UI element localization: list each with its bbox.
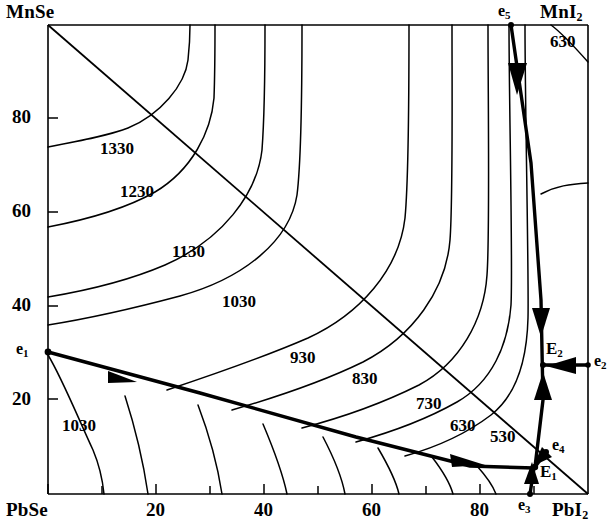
contour-label-930: 930 [290,349,316,366]
point-label-E2-sub: 2 [557,347,563,359]
sub-contour-b [198,405,222,494]
contour-label-1230: 1230 [120,183,154,200]
point-E1 [532,464,538,470]
point-label-e4-sub: 4 [559,443,565,455]
contour-label-530: 530 [490,428,516,445]
ytick-label-80: 80 [12,107,31,126]
point-label-E2: E2 [546,340,563,357]
corner-label-pbse: PbSe [6,500,48,519]
arrowhead-e1-2 [450,454,485,467]
corner-label-mni2-sub: 2 [577,10,583,24]
point-label-e2-sub: 2 [601,359,607,371]
isotherm-1030-upper [48,25,302,325]
sub-contour-a [125,396,148,494]
axis-ticks-x [48,484,534,494]
contour-label-630-mid: 630 [450,417,476,434]
point-label-e2: e2 [594,353,607,369]
arrowhead-e2 [546,357,576,374]
isotherm-930 [167,25,409,390]
isotherm-630-MnI2-lower [541,183,588,194]
point-label-E1: E1 [540,463,557,480]
arrowhead-e5 [508,63,527,95]
phase-diagram-figure: MnSe MnI2 PbSe PbI2 80 60 40 20 20 40 60… [0,0,616,531]
xtick-label-40: 40 [254,500,273,519]
ytick-label-20: 20 [12,389,31,408]
point-label-e3-sub: 3 [525,503,531,515]
contour-label-630-mni2: 630 [550,33,576,50]
corner-label-mni2: MnI2 [540,2,583,21]
contour-label-1030-mid: 1030 [222,293,256,310]
corner-label-pbi2-sub: 2 [582,508,588,522]
point-label-E2-letter: E [546,339,557,358]
point-e4 [543,449,549,455]
xtick-label-80: 80 [470,500,489,519]
sub-contour-e [378,448,399,494]
corner-label-pbi2-text: PbI [552,499,582,520]
xtick-label-20: 20 [146,500,165,519]
contour-label-730: 730 [416,395,442,412]
contour-label-1130: 1130 [172,243,205,260]
point-E2 [540,362,546,368]
point-label-e4: e4 [552,437,565,453]
point-label-E1-sub: 1 [551,470,557,482]
point-e2 [585,362,591,368]
boundary-e1-to-E1 [48,352,534,468]
xtick-label-60: 60 [362,500,381,519]
isotherm-730 [302,25,489,428]
corner-label-mni2-text: MnI [540,1,577,22]
point-e5 [508,22,514,28]
point-label-e3: e3 [518,497,531,513]
corner-label-pbi2: PbI2 [552,500,588,519]
sub-contour-d [323,437,345,494]
ytick-label-60: 60 [12,201,31,220]
contour-label-830: 830 [352,370,378,387]
isotherm-1130 [48,25,265,297]
corner-label-mnse: MnSe [6,2,54,21]
direction-arrowheads [108,63,576,484]
point-label-E1-letter: E [540,462,551,481]
point-label-e5-sub: 5 [505,9,511,21]
arrowhead-E2-bottom [534,372,552,400]
point-label-e5: e5 [498,3,511,19]
ytick-label-40: 40 [12,295,31,314]
point-label-e1: e1 [16,341,29,357]
arrowhead-E2-top [532,308,550,337]
point-label-e1-sub: 1 [23,347,29,359]
contour-label-1030-pbse: 1030 [62,417,96,434]
point-e1 [45,349,52,356]
contour-label-1330: 1330 [100,140,134,157]
sub-contour-c [263,424,287,494]
phase-diagram-svg [0,0,616,531]
